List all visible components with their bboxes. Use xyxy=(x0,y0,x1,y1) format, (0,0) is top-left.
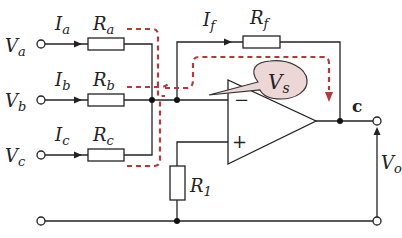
output-voltage-arrow xyxy=(374,127,381,135)
current-arrow-ic xyxy=(74,152,82,159)
terminal-vc xyxy=(37,151,45,159)
junction-sum-node xyxy=(149,97,155,103)
resistor-rb xyxy=(88,94,124,106)
terminal-va xyxy=(37,40,45,48)
input-branch-b: Vb Ib Rb xyxy=(5,69,228,114)
junction-ground-node xyxy=(174,218,180,224)
vs-callout: Vs xyxy=(209,61,307,99)
summing-amplifier-diagram: Va Ia Ra Vb Ib Rb Vc Ic Rc If Rf xyxy=(0,0,402,238)
current-path-bottom xyxy=(127,100,160,166)
terminal-ground-right xyxy=(373,217,381,225)
label-rb: Rb xyxy=(92,69,115,93)
junction-output-node xyxy=(337,118,343,124)
resistor-rf xyxy=(243,36,280,48)
label-vo: Vo xyxy=(381,152,402,176)
resistor-rc xyxy=(88,149,124,161)
label-ib: Ib xyxy=(54,69,70,93)
label-if: If xyxy=(202,9,217,33)
label-vb: Vb xyxy=(5,90,26,114)
terminal-ground-left xyxy=(37,217,45,225)
current-arrow-ib xyxy=(74,97,82,104)
current-arrow-ia xyxy=(74,41,82,48)
current-path-arrowhead xyxy=(325,92,333,102)
label-rc: Rc xyxy=(92,124,115,148)
label-va: Va xyxy=(5,35,26,59)
label-rf: Rf xyxy=(249,7,271,31)
resistor-r1 xyxy=(170,166,185,200)
label-ra: Ra xyxy=(92,13,114,37)
resistor-ra xyxy=(88,38,124,50)
terminal-output-c xyxy=(373,117,381,125)
opamp-noninverting-sign: + xyxy=(232,131,247,152)
input-branch-c: Vc Ic Rc xyxy=(5,100,152,169)
label-r1: R1 xyxy=(189,175,212,199)
label-vc: Vc xyxy=(5,145,26,169)
label-node-c: c xyxy=(352,96,362,116)
current-path-mid xyxy=(127,84,168,87)
label-ia: Ia xyxy=(54,13,70,37)
label-ic: Ic xyxy=(54,124,70,148)
terminal-vb xyxy=(37,96,45,104)
vs-callout-bubble xyxy=(209,61,307,99)
current-arrow-if xyxy=(224,39,232,46)
